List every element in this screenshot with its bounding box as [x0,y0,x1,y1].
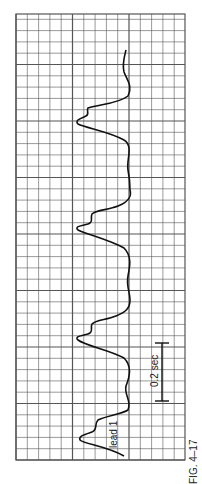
ecg-trace [77,50,131,456]
lead-label: lead 1 [108,420,119,448]
scale-label: 0.2 sec [149,355,160,387]
ecg-grid [16,14,185,460]
ecg-strip: 0.2 sec lead 1 FIG. 4–17 [0,0,202,484]
figure-caption: FIG. 4–17 [188,439,199,484]
